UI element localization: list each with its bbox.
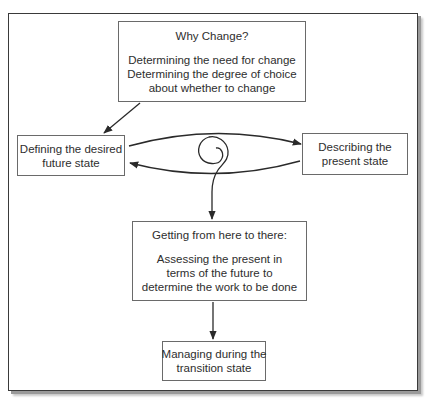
- why-change-line-2: Determining the degree of choice: [127, 67, 296, 81]
- getting-there-line-3: determine the work to be done: [142, 280, 297, 294]
- getting-there-box: Getting from here to there: Assessing th…: [132, 221, 307, 301]
- present-state-line-1: Describing the: [318, 140, 392, 154]
- desired-future-state-line-1: Defining the desired: [20, 142, 122, 156]
- getting-there-line-2: terms of the future to: [166, 266, 272, 280]
- why-change-title: Why Change?: [176, 29, 249, 43]
- getting-there-title: Getting from here to there:: [152, 228, 287, 242]
- desired-future-state-line-2: future state: [42, 156, 100, 170]
- why-change-box: Why Change? Determining the need for cha…: [118, 21, 306, 102]
- present-state-line-2: present state: [322, 154, 388, 168]
- getting-there-line-1: Assessing the present in: [157, 252, 282, 266]
- why-change-line-1: Determining the need for change: [128, 53, 296, 67]
- transition-state-line-2: transition state: [177, 361, 252, 375]
- transition-state-box: Managing during the transition state: [162, 341, 266, 381]
- present-state-box: Describing the present state: [302, 133, 408, 175]
- transition-state-line-1: Managing during the: [162, 347, 267, 361]
- why-change-line-3: about whether to change: [149, 81, 276, 95]
- desired-future-state-box: Defining the desired future state: [17, 135, 125, 176]
